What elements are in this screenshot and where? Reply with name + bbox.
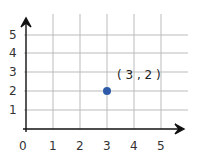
svg-text:5: 5 (157, 139, 165, 153)
svg-text:4: 4 (9, 46, 17, 60)
svg-text:2: 2 (9, 84, 17, 98)
svg-text:1: 1 (49, 139, 57, 153)
grid-lines (24, 14, 188, 129)
coordinate-plane: 0 1 2 3 4 5 1 2 3 4 5 ( 3 , 2 ) (0, 0, 200, 164)
data-point (103, 87, 111, 95)
y-tick-labels: 1 2 3 4 5 (9, 28, 17, 117)
svg-text:5: 5 (9, 28, 17, 42)
svg-text:4: 4 (130, 139, 138, 153)
svg-text:1: 1 (9, 103, 17, 117)
svg-text:2: 2 (76, 139, 84, 153)
point-label: ( 3 , 2 ) (117, 68, 161, 82)
svg-text:3: 3 (103, 139, 111, 153)
svg-text:3: 3 (9, 65, 17, 79)
svg-text:0: 0 (19, 139, 27, 153)
x-tick-labels: 0 1 2 3 4 5 (19, 139, 165, 153)
